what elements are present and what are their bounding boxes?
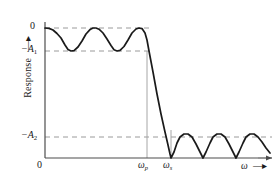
origin-label: 0	[37, 160, 42, 170]
y-tick-a1-text: −A	[21, 43, 34, 54]
magnitude-response-curve	[45, 28, 270, 158]
y-tick-a2-sub: 2	[34, 134, 37, 141]
y-tick-label-zero: 0	[30, 21, 35, 31]
x-axis-label-group: ω —▸	[241, 162, 266, 172]
x-axis-arrow-icon	[258, 155, 272, 160]
x-tick-label-omega-p: ωp	[138, 161, 148, 171]
x-axis-label: ω	[241, 161, 248, 171]
y-axis-label: Response	[22, 58, 33, 98]
x-tick-wp-text: ω	[138, 160, 145, 170]
y-tick-a1-sub: 1	[34, 48, 37, 55]
right-arrow-icon: —▸	[253, 161, 266, 171]
y-tick-label-minus-a2: −A2	[21, 130, 37, 142]
x-tick-ws-text: ω	[163, 160, 170, 170]
y-tick-zero-text: 0	[30, 20, 35, 31]
plot-canvas	[0, 0, 279, 183]
x-tick-wp-sub: p	[145, 164, 148, 171]
filter-response-figure: Response —▸ 0 −A1 −A2 0 ωp ωs ω —▸	[0, 0, 279, 183]
x-tick-label-omega-s: ωs	[163, 161, 172, 171]
y-tick-a2-text: −A	[21, 129, 34, 140]
x-tick-ws-sub: s	[170, 164, 173, 171]
origin-label-text: 0	[37, 159, 42, 170]
y-tick-label-minus-a1: −A1	[21, 44, 37, 56]
